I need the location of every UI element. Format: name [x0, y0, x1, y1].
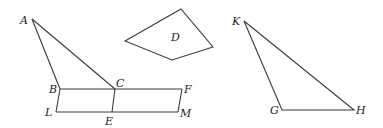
label-m: M: [179, 107, 192, 120]
segment-ce: [112, 89, 115, 112]
label-h: H: [355, 104, 366, 117]
quadrilateral-d: [125, 9, 213, 60]
label-f: F: [183, 83, 192, 96]
label-d: D: [170, 31, 180, 44]
figure-quadrilateral-d: D: [125, 9, 213, 60]
label-l: L: [44, 106, 52, 119]
label-a: A: [19, 14, 28, 27]
figure-triangle-abc-parallelogram: A B C F L E M: [19, 14, 192, 128]
segment-ac: [32, 19, 115, 89]
label-b: B: [48, 83, 57, 96]
label-g: G: [270, 104, 279, 117]
segment-ab: [32, 19, 60, 89]
geometry-diagram: A B C F L E M D K G H: [0, 0, 383, 128]
figure-triangle-kgh: K G H: [231, 15, 366, 117]
label-k: K: [231, 15, 241, 28]
label-e: E: [104, 115, 113, 128]
label-c: C: [116, 77, 125, 90]
triangle-kgh: [244, 21, 354, 110]
